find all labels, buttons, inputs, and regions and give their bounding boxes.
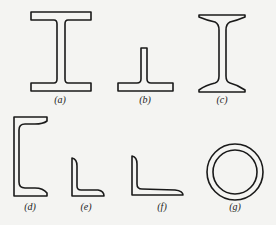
steel-sections-diagram <box>0 0 276 225</box>
label-d: (d) <box>24 201 36 212</box>
label-a: (a) <box>54 94 66 105</box>
label-g: (g) <box>229 201 241 212</box>
tube-section-g-inner <box>213 150 257 194</box>
channel-section-d <box>14 117 47 196</box>
label-f: (f) <box>157 201 166 212</box>
label-b: (b) <box>139 94 151 105</box>
tube-section-g-outer <box>207 144 263 200</box>
label-c: (c) <box>216 94 227 105</box>
label-e: (e) <box>80 201 91 212</box>
t-section-b <box>118 48 173 91</box>
equal-angle-section-e <box>72 158 104 196</box>
tapered-i-beam-section-c <box>199 15 245 92</box>
unequal-angle-section-f <box>132 156 183 195</box>
i-beam-section-a <box>31 12 91 91</box>
